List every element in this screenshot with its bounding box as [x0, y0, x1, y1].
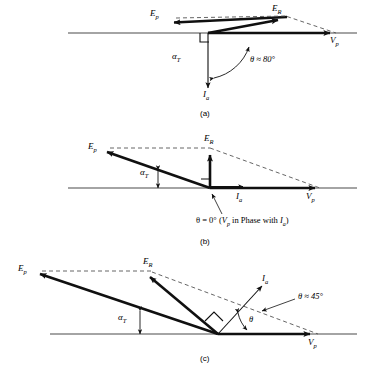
- panel-c-theta-leader: [262, 299, 295, 311]
- panel-c-label-alphaT: αT: [118, 313, 126, 324]
- panel-b-label-ER: ER: [204, 134, 213, 145]
- panel-c-label-theta-value: θ ≈ 45°: [298, 292, 323, 301]
- panel-c-label-Ep: Ep: [18, 264, 27, 275]
- panel-b-vector-Ep: [107, 152, 210, 188]
- panel-a-theta-arc: [214, 47, 249, 78]
- panel-b-note-theta: θ = 0° (Vp in Phase with Ia): [196, 216, 289, 227]
- phasor-diagram-figure: Ep ER Vp Ia αT θ ≈ 80° (a) Ep ER Vp Ia α…: [0, 0, 377, 378]
- panel-c-theta-arc: [238, 313, 247, 330]
- panel-a-vector-ER: [208, 20, 278, 33]
- panel-c-label-ER: ER: [143, 257, 152, 268]
- panel-c-right-angle-marker: [205, 312, 223, 321]
- panel-a-label-theta: θ ≈ 80°: [250, 55, 275, 64]
- panel-b-dashed-hyp: [210, 148, 320, 188]
- panel-a-label-Vp: Vp: [330, 36, 339, 47]
- panel-b-caption: (b): [200, 238, 210, 246]
- panel-a-label-Ep: Ep: [150, 9, 159, 20]
- panel-b-label-Ia: Ia: [236, 192, 242, 203]
- phasor-diagram-canvas: [0, 0, 377, 378]
- panel-c-caption: (c): [200, 355, 209, 363]
- panel-a-graphics: [68, 16, 357, 88]
- panel-c-vector-ER: [150, 277, 218, 334]
- panel-c-label-Vp: Vp: [308, 338, 317, 349]
- panel-a-label-Ia: Ia: [203, 90, 209, 101]
- panel-a-label-alphaT: αT: [172, 52, 180, 63]
- panel-b-label-Vp: Vp: [306, 192, 315, 203]
- panel-a-dashed-ER-Vp: [287, 17, 336, 34]
- panel-c-vector-Ep: [40, 274, 218, 334]
- panel-b-label-alphaT: αT: [140, 168, 148, 179]
- panel-c-label-theta-arc: θ: [249, 315, 253, 324]
- panel-b-label-Ep: Ep: [88, 142, 97, 153]
- panel-c-label-Ia: Ia: [262, 274, 268, 285]
- panel-a-label-ER: ER: [272, 4, 281, 15]
- panel-a-caption: (a): [200, 110, 210, 118]
- panel-b-graphics: [68, 148, 357, 214]
- panel-b-theta-leader: [212, 194, 222, 214]
- panel-c-vector-Ia: [218, 286, 262, 334]
- panel-c-graphics: [40, 271, 357, 334]
- panel-c-dashed-hyp: [152, 272, 318, 334]
